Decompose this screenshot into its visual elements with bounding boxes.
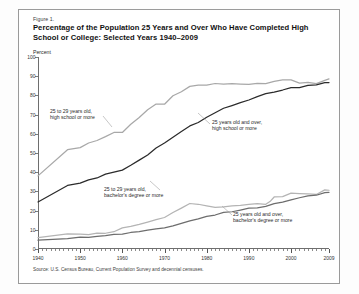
x-axis-minor-tick <box>224 249 225 251</box>
x-axis-minor-tick <box>173 249 174 251</box>
x-axis-minor-tick <box>308 249 309 251</box>
x-axis-minor-tick <box>72 249 73 251</box>
x-axis-minor-tick <box>219 249 220 251</box>
series-line <box>38 79 329 176</box>
x-axis-minor-tick <box>152 249 153 251</box>
x-axis-minor-tick <box>240 249 241 251</box>
series-annotation-ba-25to29: 25 to 29 years old, bachelor's degree or… <box>104 186 163 198</box>
figure-title: Percentage of the Population 25 Years an… <box>33 23 333 42</box>
x-axis-tick-label: 1950 <box>75 255 86 261</box>
x-axis-minor-tick <box>148 249 149 251</box>
x-axis-tick-label: 2000 <box>285 255 296 261</box>
x-axis-minor-tick <box>169 249 170 251</box>
x-axis-minor-tick <box>114 249 115 251</box>
x-axis-minor-tick <box>55 249 56 251</box>
x-axis-minor-tick <box>105 249 106 251</box>
y-axis-tick-label: 30 <box>30 189 35 194</box>
x-axis-minor-tick <box>253 249 254 251</box>
x-axis-minor-tick <box>257 249 258 251</box>
x-axis-major-tick <box>38 249 39 253</box>
y-axis-tick-label: 70 <box>30 112 35 117</box>
x-axis-minor-tick <box>186 249 187 251</box>
x-axis-minor-tick <box>93 249 94 251</box>
x-axis-major-tick <box>80 249 81 253</box>
x-axis-minor-tick <box>266 249 267 251</box>
y-axis-tick-label: 100 <box>27 55 35 60</box>
x-axis-minor-tick <box>299 249 300 251</box>
source-note: Source: U.S. Census Bureau, Current Popu… <box>33 267 204 272</box>
x-axis-minor-tick <box>160 249 161 251</box>
x-axis-minor-tick <box>127 249 128 251</box>
x-axis-minor-tick <box>59 249 60 251</box>
x-axis-major-tick <box>329 249 330 253</box>
x-axis-major-tick <box>122 249 123 253</box>
annotation-leader-line <box>222 206 232 215</box>
x-axis-minor-tick <box>304 249 305 251</box>
x-axis-tick-label: 1990 <box>243 255 254 261</box>
y-axis-tick-label: 90 <box>30 74 35 79</box>
x-axis-major-tick <box>291 249 292 253</box>
x-axis-minor-tick <box>262 249 263 251</box>
x-axis-minor-tick <box>131 249 132 251</box>
figure-number: Figure 1. <box>33 16 54 22</box>
x-axis-minor-tick <box>46 249 47 251</box>
x-axis-minor-tick <box>283 249 284 251</box>
x-axis-minor-tick <box>215 249 216 251</box>
x-axis-minor-tick <box>101 249 102 251</box>
y-axis-tick-label: 60 <box>30 131 35 136</box>
figure-title-line-1: Percentage of the Population 25 Years an… <box>33 23 289 32</box>
x-axis-major-tick <box>207 249 208 253</box>
x-axis-minor-tick <box>274 249 275 251</box>
annotation-leader-line <box>198 113 210 124</box>
x-axis-major-tick <box>249 249 250 253</box>
x-axis-minor-tick <box>143 249 144 251</box>
annotation-line-2: bachelor's degree or more <box>233 217 292 223</box>
x-axis-minor-tick <box>181 249 182 251</box>
series-annotation-hs-25plus: 25 years old and over, high school or mo… <box>212 119 262 131</box>
x-axis-major-tick <box>165 249 166 253</box>
series-line <box>38 83 329 202</box>
y-axis-tick-label: 20 <box>30 208 35 213</box>
x-axis-minor-tick <box>202 249 203 251</box>
x-axis-minor-tick <box>135 249 136 251</box>
x-axis-minor-tick <box>42 249 43 251</box>
x-axis-tick-label: 1940 <box>32 255 43 261</box>
figure-page: Figure 1. Percentage of the Population 2… <box>0 0 359 294</box>
annotation-line-2: bachelor's degree or more <box>104 192 163 198</box>
x-axis-minor-tick <box>118 249 119 251</box>
x-axis-minor-tick <box>156 249 157 251</box>
x-axis-tick-label: 1970 <box>159 255 170 261</box>
x-axis-minor-tick <box>312 249 313 251</box>
x-axis-minor-tick <box>321 249 322 251</box>
x-axis-minor-tick <box>139 249 140 251</box>
x-axis-minor-tick <box>84 249 85 251</box>
series-annotation-hs-25to29: 25 to 29 years old, high school or more <box>50 108 95 120</box>
x-axis-minor-tick <box>97 249 98 251</box>
y-axis-tick-label: 0 <box>33 247 36 252</box>
x-axis-minor-tick <box>228 249 229 251</box>
annotation-line-2: high school or more <box>50 114 95 120</box>
x-axis-minor-tick <box>190 249 191 251</box>
x-axis-minor-tick <box>287 249 288 251</box>
y-axis-unit-label: Percent <box>33 49 51 55</box>
x-axis-minor-tick <box>177 249 178 251</box>
x-axis-minor-tick <box>110 249 111 251</box>
x-axis-minor-tick <box>63 249 64 251</box>
x-axis-minor-tick <box>325 249 326 251</box>
x-axis-minor-tick <box>68 249 69 251</box>
x-axis-minor-tick <box>198 249 199 251</box>
x-axis-minor-tick <box>245 249 246 251</box>
y-axis-tick-label: 40 <box>30 170 35 175</box>
x-axis-minor-tick <box>89 249 90 251</box>
y-axis-tick-label: 80 <box>30 93 35 98</box>
annotation-line-2: high school or more <box>212 125 262 131</box>
y-axis-tick-label: 50 <box>30 151 35 156</box>
x-axis-minor-tick <box>76 249 77 251</box>
x-axis-minor-tick <box>236 249 237 251</box>
x-axis-tick-label: 1980 <box>201 255 212 261</box>
series-annotation-ba-25plus: 25 years old and over, bachelor's degree… <box>233 211 292 223</box>
x-axis-minor-tick <box>295 249 296 251</box>
x-axis-minor-tick <box>211 249 212 251</box>
x-axis-minor-tick <box>278 249 279 251</box>
x-axis-minor-tick <box>51 249 52 251</box>
